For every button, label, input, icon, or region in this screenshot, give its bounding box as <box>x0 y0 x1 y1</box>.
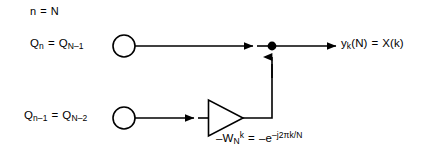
iteration-rhs: N <box>51 5 59 17</box>
coefficient-rhs-exponent: –j2πk/N <box>272 130 303 140</box>
label-twiddle-coefficient: –WNk=–e–j2πk/N <box>216 133 303 145</box>
label-state-top: Qn=QN–1 <box>30 38 84 50</box>
state-bottom-symbol: Q <box>24 109 33 121</box>
edge-amplifier-feedback-path <box>243 64 272 118</box>
coefficient-superscript: k <box>240 130 244 140</box>
iteration-equals: = <box>40 5 47 17</box>
signal-flow-diagram: n=N Qn=QN–1 Qn–1=QN–2 yk(N)=X(k) –WNk=–e… <box>0 0 430 162</box>
output-equals: = <box>371 37 378 49</box>
label-output-value: yk(N)=X(k) <box>341 38 404 50</box>
output-rhs: X(k) <box>382 37 403 49</box>
state-bottom-subscript-2: N–2 <box>71 113 87 123</box>
coefficient-equals: = <box>248 132 255 144</box>
input-node-top-circle <box>113 35 135 57</box>
state-top-equals: = <box>48 37 55 49</box>
state-top-symbol-2: Q <box>59 37 68 49</box>
state-top-symbol: Q <box>30 37 39 49</box>
state-bottom-equals: = <box>52 109 59 121</box>
label-iteration-count: n=N <box>30 6 59 17</box>
coefficient-symbol: W <box>223 132 234 144</box>
amplifier-triangle <box>209 100 244 136</box>
diagram-graphics-layer <box>0 0 430 162</box>
label-state-bottom: Qn–1=QN–2 <box>24 110 87 122</box>
state-top-subscript-2: N–1 <box>68 41 84 51</box>
output-argument: (N) <box>351 37 367 49</box>
iteration-lhs: n <box>30 5 36 17</box>
state-bottom-subscript: n–1 <box>33 113 47 123</box>
input-node-bottom-circle <box>113 107 135 129</box>
state-top-subscript: n <box>39 41 44 51</box>
